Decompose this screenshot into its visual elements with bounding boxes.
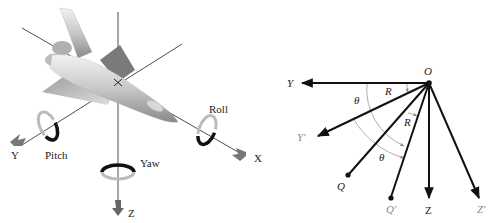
theta-label-2: θ [379, 151, 385, 163]
aircraft-figure: Roll Pitch Yaw X Y Z [10, 8, 262, 219]
q-label: Q [337, 180, 345, 192]
theta-label-1: θ [354, 94, 360, 106]
z-label: Z [425, 204, 432, 216]
pitch-rotation-icon [34, 109, 61, 143]
r-arc-1 [407, 83, 408, 92]
q-prime-point [388, 195, 393, 200]
y-axis-label: Y [11, 149, 19, 161]
yaw-label: Yaw [140, 157, 160, 169]
y-prime-label: Y′ [297, 131, 306, 143]
q-prime-label: Q′ [386, 203, 397, 215]
z-prime-vector [429, 83, 479, 198]
origin-point [426, 80, 432, 86]
z-axis-arrow-icon [112, 200, 124, 216]
origin-label: O [424, 65, 432, 77]
aircraft-icon [42, 8, 178, 122]
z-axis-label: Z [128, 207, 135, 219]
diagram-canvas: Roll Pitch Yaw X Y Z O Y Y′ Q Q′ Z Z′ R … [0, 0, 493, 223]
y-prime-vector [318, 83, 429, 136]
roll-label: Roll [209, 103, 228, 115]
roll-rotation-icon [194, 113, 219, 147]
r-label-1: R [384, 85, 392, 97]
z-prime-label: Z′ [477, 203, 486, 215]
x-axis-label: X [254, 152, 262, 164]
q-point [345, 172, 350, 177]
y-label: Y [287, 77, 295, 89]
q-prime-vector [391, 83, 429, 197]
pitch-label: Pitch [45, 149, 68, 161]
r-label-2: R [403, 116, 411, 128]
axes-rotation-figure: O Y Y′ Q Q′ Z Z′ R R θ θ [287, 65, 486, 216]
